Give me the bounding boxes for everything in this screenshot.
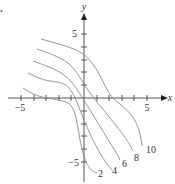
stray-dot: [1, 10, 3, 12]
contour-label-6: 6: [122, 158, 127, 169]
contour-label-10: 10: [146, 144, 156, 155]
contour-6: [33, 61, 120, 160]
y-axis-label: y: [81, 1, 87, 12]
contour-label-2: 2: [98, 168, 103, 179]
y-axis-arrow-icon: [81, 13, 87, 20]
x-tick-label-5: 5: [145, 102, 150, 113]
contour-label-8: 8: [134, 152, 139, 163]
contour-curves: [23, 39, 142, 173]
x-axis-label: x: [167, 92, 173, 103]
contour-plot: x y −5 5 5 −5 10 8 6 4 2: [0, 0, 175, 184]
contour-label-4: 4: [112, 165, 117, 176]
y-tick-label-5: 5: [72, 28, 77, 39]
contour-10: [41, 39, 142, 146]
x-tick-label-neg5: −5: [15, 102, 26, 113]
y-tick-label-neg5: −5: [68, 157, 79, 168]
contour-4: [28, 73, 112, 170]
axes: [8, 13, 168, 182]
